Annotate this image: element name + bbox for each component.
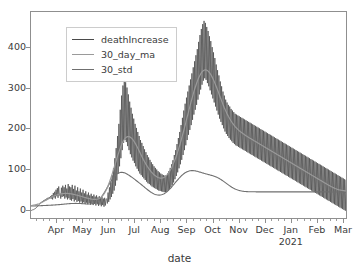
xaxis-label: date [0, 252, 359, 264]
xtick-mark [160, 219, 161, 223]
xtick-minor-mark [180, 219, 181, 221]
xtick-minor-mark [76, 219, 77, 221]
xtick-minor-mark [102, 219, 103, 221]
xtick-minor-mark [252, 219, 253, 221]
xtick-label-mar: Mar [334, 224, 352, 235]
legend-item-30-std: 30_std [72, 62, 169, 77]
xtick-minor-mark [304, 219, 305, 221]
xtick-minor-mark [193, 219, 194, 221]
xtick-minor-mark [141, 219, 142, 221]
xtick-minor-mark [49, 219, 50, 221]
xtick-minor-mark [297, 219, 298, 221]
xtick-year-label: 2021 [279, 236, 303, 247]
xtick-label-sep: Sep [178, 224, 196, 235]
xtick-minor-mark [36, 219, 37, 221]
ytick-label-0: 0 [0, 205, 26, 215]
xtick-label-aug: Aug [151, 224, 170, 235]
xtick-mark [82, 219, 83, 223]
xtick-minor-mark [206, 219, 207, 221]
xtick-mark [343, 219, 344, 223]
ytick-label-200: 200 [0, 123, 26, 133]
xtick-minor-mark [271, 219, 272, 221]
xtick-minor-mark [128, 219, 129, 221]
xtick-minor-mark [219, 219, 220, 221]
xtick-minor-mark [95, 219, 96, 221]
xtick-minor-mark [154, 219, 155, 221]
ytick-label-400: 400 [0, 42, 26, 52]
xtick-minor-mark [173, 219, 174, 221]
xtick-minor-mark [69, 219, 70, 221]
legend-item-deathincrease: deathIncrease [72, 32, 169, 47]
xtick-minor-mark [63, 219, 64, 221]
legend-item-30-day-ma: 30_day_ma [72, 47, 169, 62]
legend-line-icon [72, 39, 94, 40]
xtick-mark [186, 219, 187, 223]
xtick-minor-mark [43, 219, 44, 221]
xtick-mark [317, 219, 318, 223]
xtick-mark [56, 219, 57, 223]
xtick-minor-mark [226, 219, 227, 221]
xtick-minor-mark [258, 219, 259, 221]
xtick-minor-mark [323, 219, 324, 221]
xtick-minor-mark [330, 219, 331, 221]
xtick-label-feb: Feb [308, 224, 325, 235]
legend-label: 30_std [101, 64, 133, 75]
xtick-minor-mark [284, 219, 285, 221]
xtick-mark [291, 219, 292, 223]
ytick-label-100: 100 [0, 164, 26, 174]
xtick-minor-mark [232, 219, 233, 221]
xtick-label-jan: Jan [283, 224, 298, 235]
xtick-minor-mark [89, 219, 90, 221]
xtick-label-apr: Apr [48, 224, 64, 235]
ytick-label-300: 300 [0, 83, 26, 93]
xtick-label-may: May [72, 224, 92, 235]
legend-label: 30_day_ma [101, 49, 155, 60]
chart-legend: deathIncrease 30_day_ma 30_std [66, 27, 177, 82]
xtick-minor-mark [147, 219, 148, 221]
xtick-label-nov: Nov [229, 224, 248, 235]
xtick-minor-mark [200, 219, 201, 221]
legend-line-icon [72, 69, 94, 70]
xtick-mark [108, 219, 109, 223]
xtick-mark [134, 219, 135, 223]
xtick-label-jun: Jun [101, 224, 116, 235]
chart-figure: 400 300 200 100 0 deathIncrease [0, 0, 359, 275]
xtick-minor-mark [245, 219, 246, 221]
xtick-mark [239, 219, 240, 223]
xtick-minor-mark [121, 219, 122, 221]
legend-label: deathIncrease [101, 34, 169, 45]
xtick-minor-mark [278, 219, 279, 221]
plot-area: deathIncrease 30_day_ma 30_std [30, 11, 347, 219]
xtick-label-jul: Jul [129, 224, 140, 235]
xtick-minor-mark [310, 219, 311, 221]
series-30-day-ma [31, 70, 346, 206]
xtick-label-oct: Oct [204, 224, 220, 235]
xtick-minor-mark [115, 219, 116, 221]
xtick-minor-mark [336, 219, 337, 221]
xtick-label-dec: Dec [256, 224, 274, 235]
xtick-mark [213, 219, 214, 223]
xtick-mark [265, 219, 266, 223]
legend-line-icon [72, 54, 94, 55]
xtick-minor-mark [167, 219, 168, 221]
